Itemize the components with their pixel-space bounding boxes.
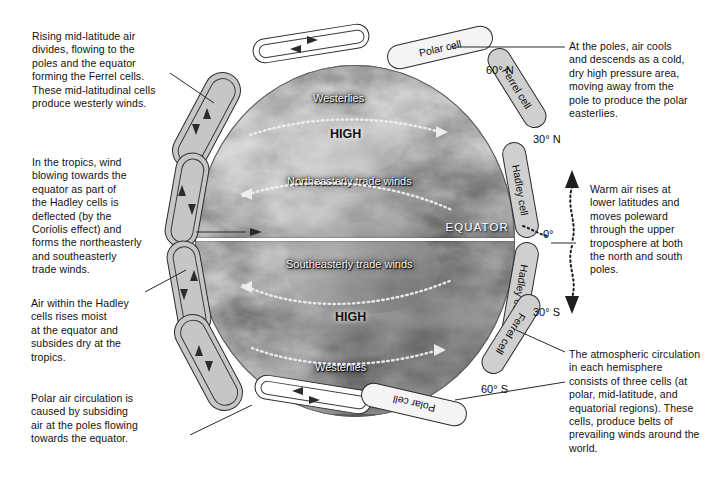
pill-label: Polar cell [392,394,437,415]
note-polar-bottom-left: Polar air circulation is caused by subsi… [31,392,203,446]
note-warm-air-right: Warm air rises at lower latitudes and mo… [590,183,725,277]
poleward-arrow-north-shaft [570,186,573,242]
note-three-cells-right: The atmospheric circulation in each hemi… [569,348,727,455]
pill-label: Hadley cell [510,164,531,217]
lat-0: 0° [543,228,554,240]
equator-line [195,238,515,241]
lat-30s: 30° S [533,306,560,318]
label-equator: EQUATOR [445,221,509,233]
globe-satellite-image [195,65,515,417]
poleward-arrowhead-north [565,170,579,188]
circulation-loop-inner [257,28,365,59]
note-hadley-moist-left: Air within the Hadley cells rises moist … [31,297,191,364]
globe: Westerlies HIGH Northeasterly trade wind… [195,65,515,417]
lat-60n: 60° N [486,64,514,76]
lat-30n: 30° N [533,133,561,145]
note-poles-top-right: At the poles, air cools and descends as … [569,40,721,120]
lat-60s: 60° S [481,383,508,395]
circulation-loop-polar-north [251,22,371,65]
diagram-canvas: Westerlies HIGH Northeasterly trade wind… [0,0,728,481]
poleward-arrow-south-shaft [570,246,573,298]
note-tropics-left: In the tropics, wind blowing towards the… [32,156,192,277]
pill-label: Polar cell [418,37,463,58]
note-ferrel-top-left: Rising mid-latitude air divides, flowing… [32,30,217,110]
poleward-arrowhead-south [565,296,579,314]
